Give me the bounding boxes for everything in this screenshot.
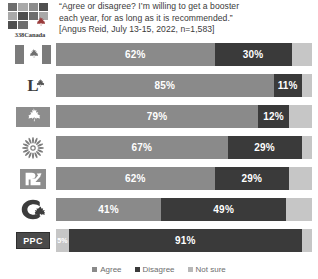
chart-row-liberal: L 85% 11% bbox=[0, 73, 318, 98]
cpc-c-icon bbox=[20, 199, 46, 220]
cpc-c-icon bbox=[13, 197, 53, 222]
bar-segment-notsure bbox=[289, 167, 312, 190]
bar-segment-disagree: 11% bbox=[274, 74, 302, 97]
legend-item-agree: Agree bbox=[92, 265, 121, 274]
maple-leaf-icon bbox=[13, 104, 53, 129]
legend-swatch-agree-icon bbox=[92, 267, 97, 272]
poll-question: “Agree or disagree? I’m willing to get a… bbox=[59, 1, 315, 36]
bar-segment-agree: 67% bbox=[56, 136, 228, 159]
canada-flag-icon bbox=[13, 42, 53, 67]
flower-icon bbox=[22, 137, 44, 159]
bar-ndp: 67% 29% bbox=[56, 136, 312, 159]
bar-conservative-party: 41% 49% bbox=[56, 198, 312, 221]
bar-segment-disagree: 49% bbox=[161, 198, 286, 221]
bar-segment-notsure bbox=[289, 105, 312, 128]
bar-segment-notsure bbox=[302, 136, 312, 159]
bloc-quebecois-icon bbox=[13, 166, 53, 191]
maple-leaf-icon bbox=[27, 48, 40, 61]
bar-segment-agree: 62% bbox=[56, 43, 215, 66]
ppc-icon: PPC bbox=[13, 228, 53, 253]
chart-row-bloc-quebecois: 62% 29% bbox=[0, 166, 318, 191]
bar-segment-agree: 5% bbox=[56, 229, 69, 252]
liberal-party-icon: L bbox=[13, 73, 53, 98]
chart-row-conservative-leaf: 79% 12% bbox=[0, 104, 318, 129]
chart-row-conservative-party: 41% 49% bbox=[0, 197, 318, 222]
ppc-logo-text: PPC bbox=[16, 232, 50, 249]
legend-label-disagree: Disagree bbox=[143, 265, 175, 274]
bar-segment-agree: 41% bbox=[56, 198, 161, 221]
bar-bloc-quebecois: 62% 29% bbox=[56, 167, 312, 190]
brand-logo: 338Canada bbox=[4, 3, 52, 40]
maple-leaf-icon bbox=[34, 16, 47, 29]
bar-ppc: 5% 91% bbox=[56, 229, 312, 252]
maple-leaf-icon bbox=[24, 107, 43, 126]
stacked-bar-chart: 62% 30% L 85% 11% bbox=[0, 42, 318, 258]
bar-segment-disagree: 29% bbox=[215, 167, 289, 190]
bar-segment-disagree: 91% bbox=[69, 229, 302, 252]
bar-segment-disagree: 12% bbox=[258, 105, 289, 128]
legend-label-notsure: Not sure bbox=[196, 265, 226, 274]
poll-source: [Angus Reid, July 13-15, 2022, n=1,583] bbox=[59, 24, 315, 36]
bar-segment-notsure bbox=[286, 198, 312, 221]
legend-item-notsure: Not sure bbox=[188, 265, 226, 274]
legend-label-agree: Agree bbox=[100, 265, 121, 274]
bar-segment-agree: 85% bbox=[56, 74, 274, 97]
bar-all-canadians: 62% 30% bbox=[56, 43, 312, 66]
poll-question-line-1: “Agree or disagree? I’m willing to get a… bbox=[59, 1, 315, 13]
chart-row-all-canadians: 62% 30% bbox=[0, 42, 318, 67]
bloc-quebecois-icon bbox=[23, 171, 43, 187]
bar-segment-disagree: 30% bbox=[215, 43, 292, 66]
chart-legend: Agree Disagree Not sure bbox=[0, 261, 318, 277]
brand-logo-text: 338Canada bbox=[4, 31, 56, 38]
bar-segment-notsure bbox=[302, 74, 312, 97]
flower-icon bbox=[13, 135, 53, 160]
bar-segment-notsure bbox=[302, 229, 312, 252]
bar-segment-agree: 62% bbox=[56, 167, 215, 190]
poll-question-line-2: each year, for as long as it is recommen… bbox=[59, 13, 315, 25]
legend-swatch-notsure-icon bbox=[188, 267, 193, 272]
legend-item-disagree: Disagree bbox=[135, 265, 175, 274]
chart-header: 338Canada “Agree or disagree? I’m willin… bbox=[0, 0, 318, 42]
bar-segment-disagree: 29% bbox=[228, 136, 302, 159]
bar-conservative-leaf: 79% 12% bbox=[56, 105, 312, 128]
maple-leaf-icon bbox=[34, 78, 46, 90]
bar-segment-notsure bbox=[292, 43, 312, 66]
chart-row-ndp: 67% 29% bbox=[0, 135, 318, 160]
bar-liberal: 85% 11% bbox=[56, 74, 312, 97]
legend-swatch-disagree-icon bbox=[135, 267, 140, 272]
bar-segment-agree: 79% bbox=[56, 105, 258, 128]
chart-row-ppc: PPC 5% 91% bbox=[0, 228, 318, 253]
